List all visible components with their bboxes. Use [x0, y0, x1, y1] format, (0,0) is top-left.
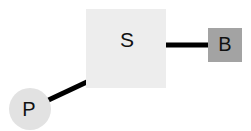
diagram-canvas: S B P	[0, 0, 251, 131]
node-s-label: S	[120, 29, 134, 50]
node-p-label: P	[22, 99, 35, 119]
node-b[interactable]: B	[208, 28, 242, 62]
node-b-label: B	[218, 34, 231, 54]
node-s[interactable]: S	[86, 9, 166, 88]
node-p[interactable]: P	[9, 88, 51, 130]
